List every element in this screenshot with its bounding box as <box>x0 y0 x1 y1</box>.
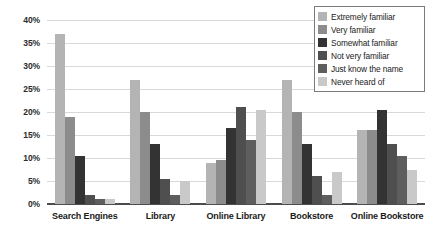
legend-item[interactable]: Very familiar <box>318 23 420 36</box>
bar[interactable] <box>140 112 150 204</box>
y-axis: 40%35%30%25%20%15%10%5%0% <box>0 0 44 214</box>
bar[interactable] <box>322 195 332 204</box>
bar-group <box>47 20 123 204</box>
legend-item[interactable]: Somewhat familiar <box>318 36 420 49</box>
legend-item[interactable]: Extremely familiar <box>318 10 420 23</box>
x-axis-tick-label: Search Engines <box>47 208 123 228</box>
bar[interactable] <box>332 172 342 204</box>
bar[interactable] <box>160 179 170 204</box>
legend-item-label: Somewhat familiar <box>331 38 398 48</box>
legend-item-label: Very familiar <box>331 25 375 35</box>
legend-swatch-icon <box>318 64 327 73</box>
bar[interactable] <box>256 110 266 204</box>
bar[interactable] <box>130 80 140 204</box>
legend-swatch-icon <box>318 38 327 47</box>
legend-item[interactable]: Never heard of <box>318 75 420 88</box>
legend-item-label: Not very familiar <box>331 51 389 61</box>
legend-swatch-icon <box>318 25 327 34</box>
legend-item[interactable]: Not very familiar <box>318 49 420 62</box>
y-axis-tick-label: 35% <box>23 38 40 48</box>
bar[interactable] <box>302 144 312 204</box>
x-axis-tick-label: Online Library <box>198 208 274 228</box>
chart-legend: Extremely familiarVery familiarSomewhat … <box>314 6 425 92</box>
bar[interactable] <box>377 110 387 204</box>
bar[interactable] <box>407 170 417 205</box>
bar[interactable] <box>246 140 256 204</box>
y-axis-tick-label: 0% <box>28 199 40 209</box>
bar[interactable] <box>236 107 246 204</box>
bar[interactable] <box>105 199 115 204</box>
bar[interactable] <box>367 130 377 204</box>
bar[interactable] <box>75 156 85 204</box>
legend-item-label: Extremely familiar <box>331 12 395 22</box>
legend-item-label: Just know the name <box>331 64 403 74</box>
legend-swatch-icon <box>318 12 327 21</box>
bar[interactable] <box>312 176 322 204</box>
x-axis-tick-label: Bookstore <box>274 208 350 228</box>
bar[interactable] <box>292 112 302 204</box>
bar[interactable] <box>387 144 397 204</box>
bar[interactable] <box>397 156 407 204</box>
y-axis-tick-label: 10% <box>23 153 40 163</box>
bar[interactable] <box>216 160 226 204</box>
bar[interactable] <box>206 163 216 204</box>
x-axis-tick-label: Library <box>123 208 199 228</box>
bar-group <box>198 20 274 204</box>
bar[interactable] <box>150 144 160 204</box>
bar[interactable] <box>357 130 367 204</box>
bar[interactable] <box>180 181 190 204</box>
bar[interactable] <box>85 195 95 204</box>
y-axis-tick-label: 20% <box>23 107 40 117</box>
bar[interactable] <box>65 117 75 204</box>
bar[interactable] <box>282 80 292 204</box>
legend-swatch-icon <box>318 77 327 86</box>
bar-group <box>123 20 199 204</box>
y-axis-tick-label: 5% <box>28 176 40 186</box>
bar[interactable] <box>226 128 236 204</box>
y-axis-tick-label: 40% <box>23 15 40 25</box>
bar[interactable] <box>170 195 180 204</box>
legend-item-label: Never heard of <box>331 77 384 87</box>
bar[interactable] <box>95 199 105 204</box>
grouped-bar-chart: 40%35%30%25%20%15%10%5%0% Search Engines… <box>0 0 431 236</box>
x-axis-labels: Search EnginesLibraryOnline LibraryBooks… <box>47 208 425 228</box>
legend-item[interactable]: Just know the name <box>318 62 420 75</box>
y-axis-tick-label: 15% <box>23 130 40 140</box>
y-axis-tick-label: 25% <box>23 84 40 94</box>
bar[interactable] <box>55 34 65 204</box>
x-axis-tick-label: Online Bookstore <box>349 208 425 228</box>
y-axis-tick-label: 30% <box>23 61 40 71</box>
legend-swatch-icon <box>318 51 327 60</box>
